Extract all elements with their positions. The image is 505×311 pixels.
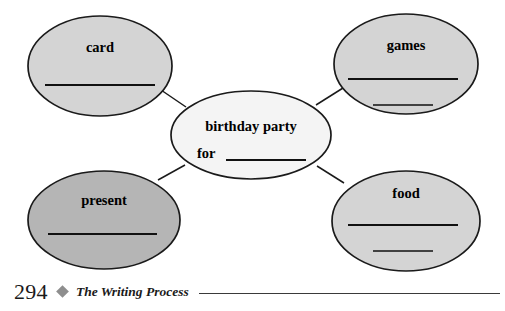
footer-page-number: 294 (14, 281, 48, 303)
cluster-diagram: card games present food birthday party (0, 0, 505, 280)
connector-center-to-present (158, 165, 185, 180)
center-label-line-2: for (197, 145, 216, 161)
connector-center-to-food (317, 166, 344, 183)
games-label: games (387, 37, 426, 53)
footer-horizontal-rule (199, 293, 500, 294)
cluster-node-games[interactable]: games (334, 14, 478, 114)
footer-section-title: The Writing Process (76, 284, 189, 300)
cluster-node-present[interactable]: present (28, 171, 180, 269)
center-label-line-1: birthday party (205, 118, 297, 134)
cluster-node-card[interactable]: card (28, 16, 172, 116)
cluster-node-center[interactable]: birthday party for (171, 91, 331, 179)
present-oval-shape (28, 171, 180, 269)
games-oval-shape (334, 14, 478, 114)
present-label: present (81, 192, 127, 208)
connector-center-to-card (161, 90, 186, 107)
page-footer: 294 The Writing Process (0, 272, 505, 311)
card-oval-shape (28, 16, 172, 116)
diamond-icon (56, 285, 69, 298)
card-label: card (86, 39, 114, 55)
center-oval-shape (171, 91, 331, 179)
cluster-node-food[interactable]: food (332, 171, 480, 271)
food-label: food (392, 185, 419, 201)
connector-center-to-games (316, 88, 343, 105)
